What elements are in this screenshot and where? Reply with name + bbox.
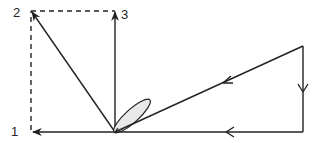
label-1: 1 <box>11 124 18 139</box>
vector-to-2 <box>32 12 115 132</box>
label-3: 3 <box>121 7 128 22</box>
arrowhead-diagonal <box>223 76 233 83</box>
label-2: 2 <box>13 5 20 20</box>
loop-diagonal <box>115 46 303 132</box>
vector-diagram: 1 2 3 <box>0 0 322 143</box>
